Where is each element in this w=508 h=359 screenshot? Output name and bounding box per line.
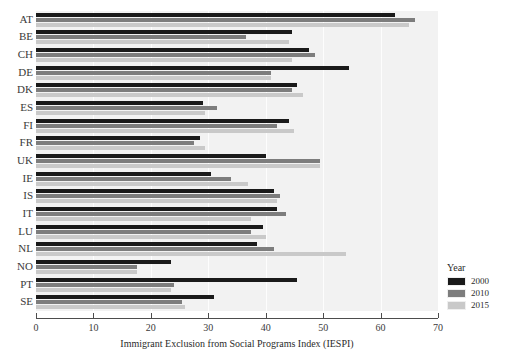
bar-SE-2015 bbox=[36, 305, 185, 309]
bar-PT-2000 bbox=[36, 278, 297, 282]
grid-line bbox=[438, 11, 439, 311]
x-tick-label-60: 60 bbox=[366, 322, 396, 333]
x-axis-line bbox=[36, 318, 438, 319]
y-axis-label-IS: IS bbox=[1, 190, 33, 201]
y-axis-label-FR: FR bbox=[1, 137, 33, 148]
x-tick-label-20: 20 bbox=[136, 322, 166, 333]
bar-UK-2015 bbox=[36, 164, 320, 168]
bar-IS-2010 bbox=[36, 194, 280, 198]
y-axis-label-SE: SE bbox=[1, 296, 33, 307]
bar-DK-2010 bbox=[36, 88, 292, 92]
bar-BE-2010 bbox=[36, 35, 246, 39]
bar-FI-2010 bbox=[36, 124, 277, 128]
bar-DK-2000 bbox=[36, 83, 297, 87]
y-axis-label-DK: DK bbox=[1, 84, 33, 95]
x-tick bbox=[208, 313, 209, 318]
y-axis-label-DE: DE bbox=[1, 67, 33, 78]
bar-AT-2010 bbox=[36, 18, 415, 22]
x-tick bbox=[323, 313, 324, 318]
bar-UK-2010 bbox=[36, 159, 320, 163]
x-tick bbox=[36, 313, 37, 318]
bar-IT-2010 bbox=[36, 212, 286, 216]
x-tick bbox=[381, 313, 382, 318]
bar-group bbox=[36, 152, 438, 170]
bar-ES-2015 bbox=[36, 111, 205, 115]
x-axis-title: Immigrant Exclusion from Social Programs… bbox=[36, 338, 438, 350]
bar-group bbox=[36, 187, 438, 205]
bar-IS-2000 bbox=[36, 189, 274, 193]
legend-swatch-2000 bbox=[447, 277, 466, 286]
bar-LU-2000 bbox=[36, 225, 263, 229]
legend-swatch-2010 bbox=[447, 289, 466, 298]
bar-DK-2015 bbox=[36, 93, 303, 97]
bar-NL-2000 bbox=[36, 242, 257, 246]
bar-AT-2000 bbox=[36, 13, 395, 17]
bar-group bbox=[36, 64, 438, 82]
y-axis-label-NL: NL bbox=[1, 243, 33, 254]
bar-group bbox=[36, 29, 438, 47]
x-tick-label-70: 70 bbox=[423, 322, 453, 333]
bar-SE-2000 bbox=[36, 295, 214, 299]
x-tick bbox=[151, 313, 152, 318]
bar-group bbox=[36, 258, 438, 276]
bar-CH-2015 bbox=[36, 58, 292, 62]
bar-NO-2000 bbox=[36, 260, 171, 264]
bar-DE-2010 bbox=[36, 71, 271, 75]
bar-LU-2015 bbox=[36, 235, 266, 239]
legend-item-2000[interactable]: 2000 bbox=[447, 276, 505, 286]
bar-IT-2015 bbox=[36, 217, 251, 221]
bar-ES-2000 bbox=[36, 101, 203, 105]
y-axis-label-NO: NO bbox=[1, 261, 33, 272]
legend-title: Year bbox=[447, 262, 505, 273]
bar-group bbox=[36, 276, 438, 294]
bar-group bbox=[36, 223, 438, 241]
legend-items: 200020102015 bbox=[447, 276, 505, 310]
bar-FR-2010 bbox=[36, 141, 194, 145]
bar-NO-2010 bbox=[36, 265, 137, 269]
y-axis-label-UK: UK bbox=[1, 155, 33, 166]
legend-item-2015[interactable]: 2015 bbox=[447, 300, 505, 310]
bar-AT-2015 bbox=[36, 23, 409, 27]
bar-CH-2010 bbox=[36, 53, 315, 57]
bar-FI-2000 bbox=[36, 119, 289, 123]
bar-group bbox=[36, 205, 438, 223]
x-tick-label-0: 0 bbox=[21, 322, 51, 333]
y-axis-label-IT: IT bbox=[1, 208, 33, 219]
legend-label-2010: 2010 bbox=[471, 288, 489, 298]
x-tick-label-40: 40 bbox=[251, 322, 281, 333]
legend-label-2015: 2015 bbox=[471, 300, 489, 310]
legend-swatch-2015 bbox=[447, 301, 466, 310]
bar-group bbox=[36, 117, 438, 135]
y-axis-label-CH: CH bbox=[1, 49, 33, 60]
bar-PT-2015 bbox=[36, 288, 171, 292]
bar-DE-2000 bbox=[36, 66, 349, 70]
bar-PT-2010 bbox=[36, 283, 174, 287]
bar-LU-2010 bbox=[36, 230, 251, 234]
bar-group bbox=[36, 135, 438, 153]
bar-group bbox=[36, 82, 438, 100]
x-tick-label-10: 10 bbox=[78, 322, 108, 333]
y-axis-label-FI: FI bbox=[1, 120, 33, 131]
bar-CH-2000 bbox=[36, 48, 309, 52]
bar-NL-2015 bbox=[36, 252, 346, 256]
bar-FR-2015 bbox=[36, 146, 205, 150]
y-axis-label-IE: IE bbox=[1, 173, 33, 184]
bar-SE-2010 bbox=[36, 300, 182, 304]
bar-IE-2010 bbox=[36, 177, 231, 181]
bar-IE-2015 bbox=[36, 182, 248, 186]
iespi-bar-chart: ATBECHDEDKESFIFRUKIEISITLUNLNOPTSE 01020… bbox=[0, 0, 508, 359]
bar-NO-2015 bbox=[36, 270, 137, 274]
bar-NL-2010 bbox=[36, 247, 274, 251]
x-tick bbox=[438, 313, 439, 318]
bar-group bbox=[36, 99, 438, 117]
y-axis-label-AT: AT bbox=[1, 14, 33, 25]
x-tick-label-30: 30 bbox=[193, 322, 223, 333]
y-axis-label-PT: PT bbox=[1, 279, 33, 290]
bar-UK-2000 bbox=[36, 154, 266, 158]
x-tick bbox=[266, 313, 267, 318]
x-tick-label-50: 50 bbox=[308, 322, 338, 333]
bar-FR-2000 bbox=[36, 136, 200, 140]
bar-BE-2015 bbox=[36, 40, 289, 44]
legend-item-2010[interactable]: 2010 bbox=[447, 288, 505, 298]
x-tick bbox=[93, 313, 94, 318]
